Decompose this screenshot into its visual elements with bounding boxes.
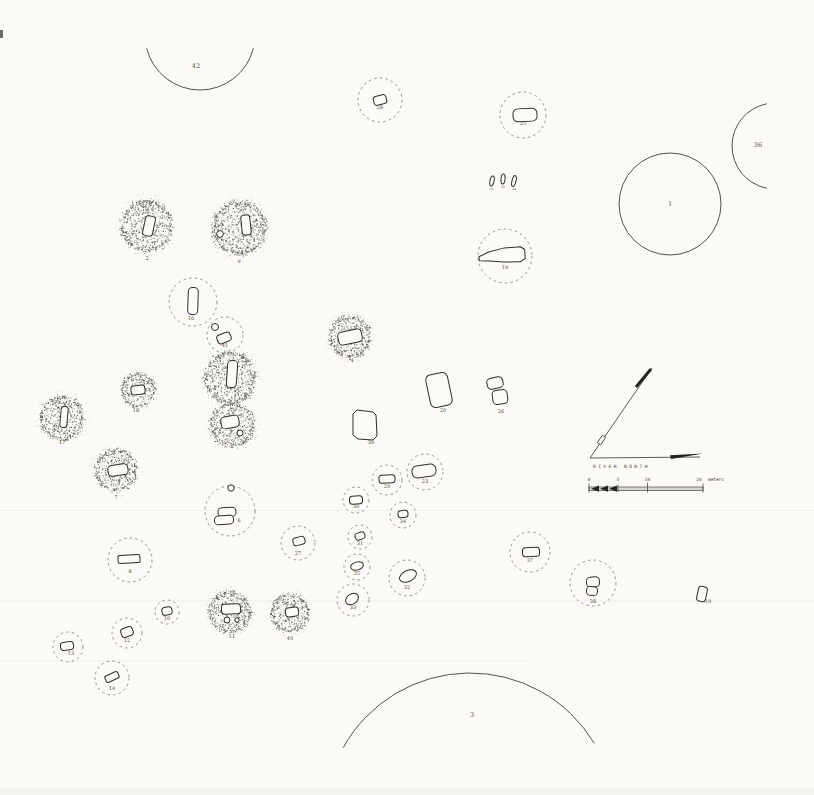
feature-label-38: 38 bbox=[590, 598, 596, 604]
scale-label-0: 0 bbox=[588, 477, 591, 482]
feature-label-39: 39 bbox=[368, 439, 374, 445]
feature-label-5: 5 bbox=[230, 443, 233, 449]
feature-label-30: 30 bbox=[353, 503, 359, 509]
feature-label-36: 36 bbox=[754, 141, 762, 149]
site-map: 4228253612122242919164141518202617539723… bbox=[0, 0, 814, 795]
feature-label-35: 35 bbox=[354, 570, 360, 576]
scale-label-10: 10 bbox=[645, 477, 651, 482]
feature-label-9: 9 bbox=[237, 258, 240, 264]
feature-22: 22 bbox=[501, 174, 506, 189]
feature-label-42: 42 bbox=[192, 62, 200, 70]
feature-label-34: 34 bbox=[400, 518, 406, 524]
feature-label-3: 3 bbox=[470, 711, 474, 719]
feature-label-1: 1 bbox=[668, 200, 672, 208]
feature-label-22: 22 bbox=[501, 185, 505, 189]
scale-unit-label: meters bbox=[708, 477, 724, 482]
feature-label-37: 37 bbox=[527, 557, 533, 563]
paper-background bbox=[0, 0, 814, 795]
feature-label-21: 21 bbox=[490, 187, 494, 191]
feature-label-28: 28 bbox=[377, 104, 383, 110]
feature-label-2: 2 bbox=[145, 255, 148, 261]
feature-label-23: 23 bbox=[422, 478, 428, 484]
feature-label-10: 10 bbox=[164, 615, 170, 621]
feature-label-8: 8 bbox=[128, 568, 131, 574]
feature-label-19: 19 bbox=[705, 598, 711, 604]
feature-label-40: 40 bbox=[287, 635, 293, 641]
feature-label-4: 4 bbox=[350, 357, 353, 363]
feature-label-17: 17 bbox=[59, 439, 65, 445]
feature-label-15: 15 bbox=[245, 394, 251, 400]
feature-label-25: 25 bbox=[520, 120, 526, 126]
feature-label-6: 6 bbox=[237, 517, 240, 523]
feature-label-20: 20 bbox=[440, 407, 446, 413]
scale-label-20: 20 bbox=[696, 477, 702, 482]
feature-label-14: 14 bbox=[109, 685, 115, 691]
feature-label-24: 24 bbox=[512, 187, 516, 191]
feature-label-12: 12 bbox=[124, 637, 130, 643]
feature-label-16: 16 bbox=[188, 315, 194, 321]
scale-label-5: 5 bbox=[617, 477, 620, 482]
north-arrow-label: RIVER NORTH bbox=[593, 464, 650, 469]
feature-label-33: 33 bbox=[350, 604, 356, 610]
feature-label-13: 13 bbox=[68, 650, 74, 656]
feature-label-11: 11 bbox=[229, 633, 235, 639]
feature-label-29: 29 bbox=[384, 483, 390, 489]
feature-label-31: 31 bbox=[357, 540, 363, 546]
feature-label-41: 41 bbox=[222, 342, 228, 348]
scan-speck bbox=[0, 30, 3, 38]
feature-label-18: 18 bbox=[133, 407, 139, 413]
feature-label-26: 26 bbox=[498, 408, 504, 414]
feature-label-32: 32 bbox=[404, 584, 410, 590]
feature-label-7: 7 bbox=[114, 494, 117, 500]
feature-label-27: 27 bbox=[295, 550, 301, 556]
feature-label-19: 19 bbox=[502, 264, 508, 270]
